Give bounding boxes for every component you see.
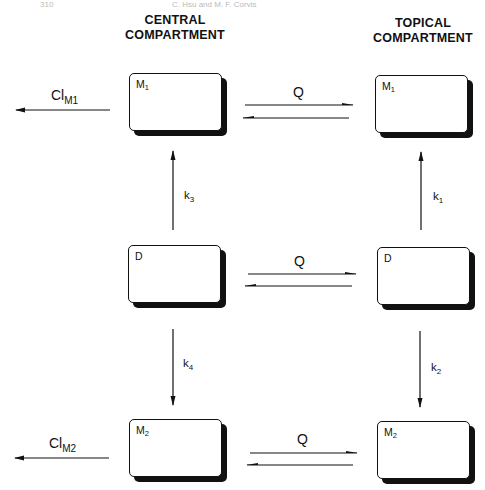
central-d-base: D <box>135 250 143 262</box>
central-m1-base: M <box>136 78 145 90</box>
topical-m2-sub: 2 <box>393 431 397 440</box>
central-d-label: D <box>135 250 143 262</box>
k1-label: k1 <box>433 190 443 205</box>
k4-sub: 4 <box>189 363 193 372</box>
topical-m2-base: M <box>384 426 393 438</box>
cl-m2-label: ClM2 <box>49 435 76 454</box>
topical-m2-label: M2 <box>384 426 397 440</box>
k2-label: k2 <box>431 361 441 376</box>
central-d-box: D <box>128 245 221 303</box>
cl-m1-label: ClM1 <box>51 87 78 106</box>
cl-m1-base: Cl <box>51 87 64 103</box>
topical-d-base: D <box>384 252 392 264</box>
q-mid-label: Q <box>294 253 305 269</box>
k1-sub: 1 <box>439 196 443 205</box>
central-m1-box: M1 <box>129 73 222 131</box>
central-m2-sub: 2 <box>145 429 149 438</box>
topical-m1-base: M <box>382 80 391 92</box>
arrows-layer <box>0 0 485 490</box>
cl-m2-base: Cl <box>49 435 62 451</box>
central-m2-box: M2 <box>129 419 222 477</box>
k3-sub: 3 <box>190 195 194 204</box>
topical-m1-sub: 1 <box>391 85 395 94</box>
central-m1-label: M1 <box>136 78 149 92</box>
central-m1-sub: 1 <box>145 83 149 92</box>
k3-label: k3 <box>184 189 194 204</box>
topical-m2-box: M2 <box>377 421 470 479</box>
q-top-label: Q <box>293 84 304 100</box>
central-m2-label: M2 <box>136 424 149 438</box>
topical-d-box: D <box>377 247 470 305</box>
cl-m2-sub: M2 <box>62 443 76 454</box>
k2-sub: 2 <box>437 367 441 376</box>
q-bot-label: Q <box>297 431 308 447</box>
topical-d-label: D <box>384 252 392 264</box>
central-m2-base: M <box>136 424 145 436</box>
topical-m1-box: M1 <box>375 75 468 133</box>
k4-label: k4 <box>183 357 193 372</box>
cl-m1-sub: M1 <box>64 95 78 106</box>
topical-m1-label: M1 <box>382 80 395 94</box>
